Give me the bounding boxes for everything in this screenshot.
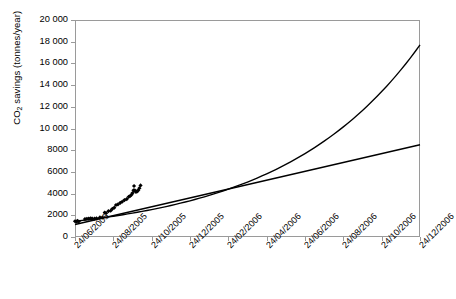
y-axis-tick-label: 14 000 [0, 79, 68, 89]
y-axis-tick-label: 10 000 [0, 123, 68, 133]
y-axis-tick-label: 20 000 [0, 14, 68, 24]
y-axis-tick-label: 6000 [0, 166, 68, 176]
y-axis-tick-label: 2000 [0, 209, 68, 219]
y-axis-tick-mark [71, 215, 75, 216]
y-axis-tick-mark [71, 63, 75, 64]
y-axis-tick-label: 4000 [0, 188, 68, 198]
y-axis-tick-label: 0 [0, 231, 68, 241]
y-axis-tick-mark [71, 42, 75, 43]
plot-area [75, 20, 420, 237]
y-axis-tick-mark [71, 107, 75, 108]
y-axis-tick-label: 8000 [0, 144, 68, 154]
x-axis-tick-label: 24/12/2006 [417, 211, 456, 250]
y-axis-tick-label: 12 000 [0, 101, 68, 111]
y-axis-tick-mark [71, 85, 75, 86]
y-axis-tick-mark [71, 129, 75, 130]
y-axis-tick-mark [71, 172, 75, 173]
y-axis-tick-mark [71, 20, 75, 21]
y-axis-tick-mark [71, 194, 75, 195]
y-axis-tick-mark [71, 150, 75, 151]
y-axis-tick-label: 16 000 [0, 57, 68, 67]
y-axis-tick-label: 18 000 [0, 36, 68, 46]
